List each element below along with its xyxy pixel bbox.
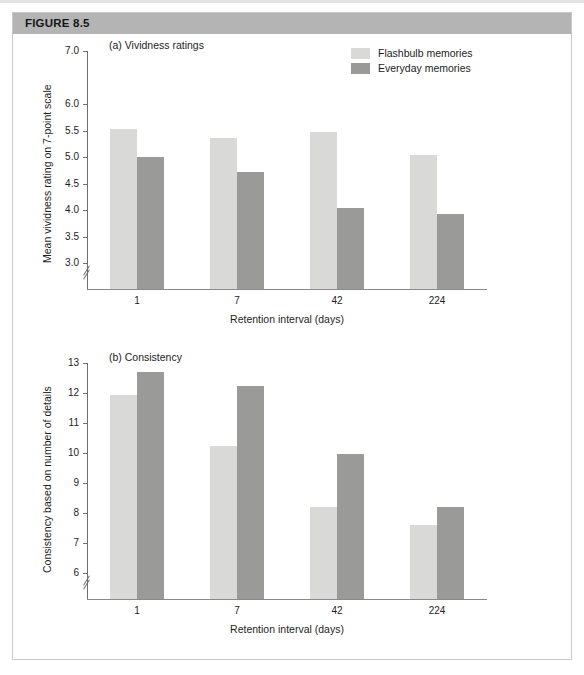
bar	[237, 386, 264, 599]
y-tick-mark	[83, 210, 87, 211]
axis-break-mark	[80, 575, 94, 591]
y-tick-mark	[83, 543, 87, 544]
y-tick-mark	[83, 157, 87, 158]
y-tick-mark	[83, 393, 87, 394]
page-top-rule	[0, 0, 584, 3]
y-tick-mark	[83, 237, 87, 238]
bar	[310, 507, 337, 599]
x-tick-label: 42	[307, 605, 367, 616]
y-tick-mark	[83, 483, 87, 484]
x-tick-label: 1	[107, 295, 167, 306]
y-tick-mark	[83, 423, 87, 424]
x-axis-label: Retention interval (days)	[87, 623, 487, 635]
y-tick-label: 13	[45, 357, 79, 368]
x-tick-label: 224	[407, 605, 467, 616]
bar	[337, 454, 364, 599]
axis-break-mark	[80, 265, 94, 281]
figure-container: FIGURE 8.5 (a) Vividness ratingsMean viv…	[12, 12, 572, 660]
x-tick-label: 7	[207, 605, 267, 616]
chart-legend: Flashbulb memoriesEveryday memories	[351, 47, 531, 77]
y-tick-mark	[83, 513, 87, 514]
figure-banner: FIGURE 8.5	[13, 13, 571, 34]
y-tick-label: 7	[45, 537, 79, 548]
bar	[237, 172, 264, 289]
legend-swatch	[351, 48, 370, 59]
y-tick-label: 4.5	[45, 178, 79, 189]
y-tick-label: 11	[45, 417, 79, 428]
panel-title: (a) Vividness ratings	[109, 39, 204, 51]
y-tick-mark	[83, 453, 87, 454]
bar	[110, 395, 137, 599]
bar	[410, 525, 437, 599]
panel-title: (b) Consistency	[109, 351, 182, 363]
y-tick-label: 4.0	[45, 204, 79, 215]
y-axis-line	[87, 363, 88, 599]
bar	[437, 214, 464, 289]
y-tick-label: 7.0	[45, 45, 79, 56]
bar	[337, 208, 364, 289]
y-tick-mark	[83, 263, 87, 264]
y-tick-label: 3.0	[45, 257, 79, 268]
x-axis-label: Retention interval (days)	[87, 313, 487, 325]
x-tick-label: 224	[407, 295, 467, 306]
figure-number-label: FIGURE 8.5	[25, 17, 90, 29]
y-tick-label: 6	[45, 567, 79, 578]
y-axis-line	[87, 51, 88, 289]
y-tick-label: 12	[45, 387, 79, 398]
y-tick-label: 3.5	[45, 231, 79, 242]
y-tick-label: 9	[45, 477, 79, 488]
bar	[110, 129, 137, 289]
x-axis-line	[87, 599, 487, 600]
y-tick-mark	[83, 104, 87, 105]
bar	[210, 446, 237, 599]
x-tick-label: 42	[307, 295, 367, 306]
y-tick-mark	[83, 363, 87, 364]
bar	[410, 155, 437, 289]
legend-item: Flashbulb memories	[351, 47, 531, 60]
y-tick-mark	[83, 573, 87, 574]
x-tick-label: 7	[207, 295, 267, 306]
y-tick-mark	[83, 51, 87, 52]
y-tick-mark	[83, 184, 87, 185]
y-tick-label: 10	[45, 447, 79, 458]
bar	[437, 507, 464, 599]
y-tick-mark	[83, 131, 87, 132]
legend-item-label: Flashbulb memories	[378, 47, 473, 59]
y-tick-label: 8	[45, 507, 79, 518]
x-tick-label: 1	[107, 605, 167, 616]
legend-item-label: Everyday memories	[378, 62, 471, 74]
bar	[137, 372, 164, 599]
bar	[137, 157, 164, 289]
legend-swatch	[351, 63, 370, 74]
legend-item: Everyday memories	[351, 62, 531, 75]
y-tick-label: 5.5	[45, 125, 79, 136]
bar	[310, 132, 337, 289]
y-tick-label: 6.0	[45, 98, 79, 109]
x-axis-line	[87, 289, 487, 290]
bar	[210, 138, 237, 289]
y-tick-label: 5.0	[45, 151, 79, 162]
